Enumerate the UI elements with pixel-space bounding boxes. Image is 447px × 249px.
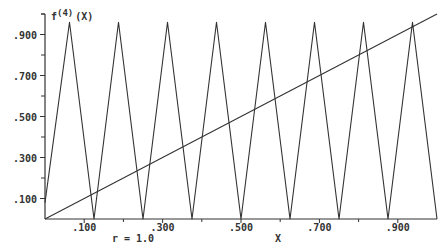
y-tick-label: .700 <box>13 71 37 82</box>
x-axis-label: X <box>275 233 281 244</box>
x-tick-label: .700 <box>307 222 331 233</box>
y-tick-label: .900 <box>13 30 37 41</box>
y-tick-label: .300 <box>13 153 37 164</box>
x-tick-label: .300 <box>151 222 175 233</box>
series-lines <box>45 14 437 219</box>
annotation-r: r = 1.0 <box>112 233 154 244</box>
x-tick-label: .900 <box>386 222 410 233</box>
x-tick-label: .100 <box>72 222 96 233</box>
y-tick-label: .500 <box>13 112 37 123</box>
x-tick-label: .500 <box>229 222 253 233</box>
chart: .100.300.500.700.900.100.300.500.700.900… <box>0 0 447 249</box>
series-identity-line <box>45 14 437 219</box>
series-f4-line <box>45 22 437 219</box>
y-axis-label: f(4)(X) <box>51 8 93 22</box>
y-tick-label: .100 <box>13 194 37 205</box>
